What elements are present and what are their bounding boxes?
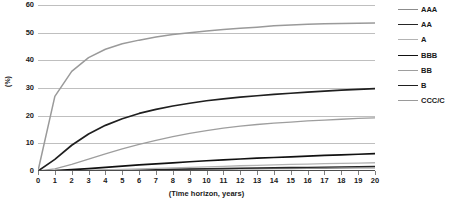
- x-axis-title: (Time horizon, years): [38, 189, 375, 198]
- legend-item-bb[interactable]: BB: [398, 63, 468, 78]
- legend-item-a[interactable]: A: [398, 32, 468, 47]
- legend-item-bbb[interactable]: BBB: [398, 48, 468, 63]
- x-axis-tick-mark: [257, 171, 258, 175]
- y-axis-tick-label: 10: [12, 139, 34, 147]
- x-axis-tick-mark: [156, 171, 157, 175]
- x-axis-tick-mark: [240, 171, 241, 175]
- x-axis-tick-mark: [358, 171, 359, 175]
- x-axis-tick-labels: 01234567891011121314151617181920: [38, 176, 375, 188]
- x-axis-tick-mark: [55, 171, 56, 175]
- series-line-ccc-c: [38, 23, 375, 171]
- legend-label: BB: [421, 66, 432, 75]
- plot-area: [38, 5, 375, 171]
- x-axis-tick-mark: [291, 171, 292, 175]
- x-axis-tick-mark: [190, 171, 191, 175]
- x-axis-tick-label: 20: [365, 176, 385, 186]
- x-axis-tick-mark: [105, 171, 106, 175]
- y-axis-tick-label: 20: [12, 112, 34, 120]
- y-axis-tick-label: 30: [12, 84, 34, 92]
- series-line-bb: [38, 118, 375, 171]
- legend-item-ccc-c[interactable]: CCC/C: [398, 93, 468, 108]
- x-axis-tick-mark: [38, 171, 39, 175]
- series-lines: [38, 5, 375, 171]
- legend-label: BBB: [421, 51, 437, 60]
- x-axis-tick-mark: [72, 171, 73, 175]
- y-axis-tick-label: 50: [12, 29, 34, 37]
- y-axis-tick-label: 60: [12, 1, 34, 9]
- legend-swatch-icon: [398, 85, 418, 86]
- x-axis-tick-mark: [341, 171, 342, 175]
- y-axis-tick-label: 40: [12, 56, 34, 64]
- x-axis-tick-mark: [207, 171, 208, 175]
- legend-item-aaa[interactable]: AAA: [398, 2, 468, 17]
- legend-swatch-icon: [398, 100, 418, 101]
- legend: AAAAAABBBBBBCCC/C: [398, 2, 468, 108]
- x-axis-tick-mark: [122, 171, 123, 175]
- legend-label: AA: [421, 20, 432, 29]
- legend-label: A: [421, 35, 426, 44]
- x-axis-tick-mark: [89, 171, 90, 175]
- legend-swatch-icon: [398, 24, 418, 25]
- legend-swatch-icon: [398, 9, 418, 10]
- legend-item-b[interactable]: B: [398, 78, 468, 93]
- x-axis-tick-mark: [308, 171, 309, 175]
- y-axis-tick-labels: 6050403020100: [12, 0, 34, 178]
- x-axis-tick-mark: [324, 171, 325, 175]
- x-axis-tick-mark: [139, 171, 140, 175]
- legend-swatch-icon: [398, 70, 418, 71]
- y-axis-title: (%): [4, 75, 11, 89]
- legend-swatch-icon: [398, 39, 418, 40]
- x-axis-tick-mark: [375, 171, 376, 175]
- x-axis-tick-mark: [173, 171, 174, 175]
- legend-swatch-icon: [398, 55, 418, 56]
- x-axis-tick-mark: [223, 171, 224, 175]
- cumulative-default-rate-chart: (%) 6050403020100 0123456789101112131415…: [0, 0, 468, 206]
- x-axis-tick-mark: [274, 171, 275, 175]
- legend-label: AAA: [421, 5, 437, 14]
- legend-label: CCC/C: [421, 96, 445, 105]
- legend-label: B: [421, 81, 426, 90]
- legend-item-aa[interactable]: AA: [398, 17, 468, 32]
- y-axis-tick-label: 0: [12, 167, 34, 175]
